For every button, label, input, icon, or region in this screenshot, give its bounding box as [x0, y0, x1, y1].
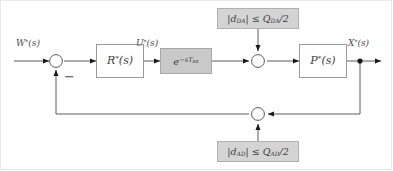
ad-disturbance-box: |dAD| ≤ QAD/2: [217, 141, 299, 162]
negative-feedback-sign: −: [64, 70, 75, 83]
da-disturbance-label: |dDA| ≤ QDA/2: [227, 13, 288, 24]
ad-summing-junction: [252, 108, 265, 121]
output-signal-label: X*(s): [348, 38, 369, 48]
controller-block-label: R*(s): [107, 54, 133, 67]
plant-block[interactable]: P*(s): [299, 44, 347, 78]
ad-disturbance-label: |dAD| ≤ QAD/2: [227, 146, 288, 157]
plant-block-label: P*(s): [310, 54, 335, 67]
error-summing-junction: [50, 55, 63, 68]
wiring-layer: [0, 0, 393, 171]
da-summing-junction: [252, 55, 265, 68]
delay-block-label: e−sTRK: [173, 56, 198, 67]
da-disturbance-box: |dDA| ≤ QDA/2: [217, 8, 299, 29]
block-diagram-canvas: R*(s) e−sTRK P*(s) |dDA| ≤ QDA/2 |dAD| ≤…: [0, 0, 393, 171]
reference-signal-label: W*(s): [16, 38, 40, 48]
controller-block[interactable]: R*(s): [96, 44, 144, 78]
output-branch-node: [357, 58, 362, 63]
delay-block[interactable]: e−sTRK: [160, 48, 212, 74]
control-signal-label: U*(s): [136, 38, 158, 48]
